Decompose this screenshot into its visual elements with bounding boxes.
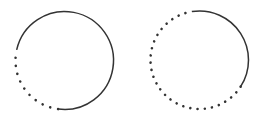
right-solid-arc (192, 11, 249, 87)
left-dotted-arc (15, 50, 58, 109)
left-circle (15, 11, 113, 109)
left-solid-arc (17, 11, 114, 109)
right-dotted-arc (150, 12, 240, 109)
circle-arc-diagram (0, 0, 262, 121)
right-circle (150, 11, 248, 109)
